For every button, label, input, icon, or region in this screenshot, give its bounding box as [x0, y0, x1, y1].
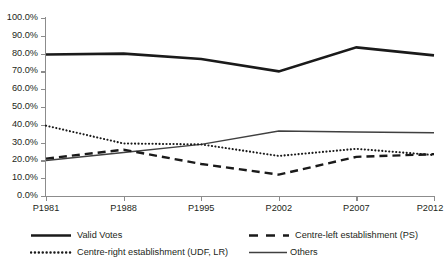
legend-label: Centre-left establishment (PS): [295, 230, 418, 241]
series-line-valid-votes: [46, 47, 434, 71]
x-tick-label: P2002: [266, 203, 293, 214]
x-axis: P1981 P1988 P1995 P2002 P2007 P2012: [0, 203, 444, 219]
legend-label: Centre-right establishment (UDF, LR): [77, 247, 228, 258]
series-line-centre-left: [46, 150, 434, 175]
legend-item-valid-votes: Valid Votes: [30, 230, 122, 241]
series-line-others: [46, 131, 434, 160]
legend-swatch-solid-thin-icon: [248, 247, 288, 258]
x-tick-label: P1995: [188, 203, 215, 214]
legend-item-centre-right: Centre-right establishment (UDF, LR): [30, 247, 228, 258]
legend-label: Others: [290, 247, 318, 258]
legend-swatch-dashed-icon: [248, 230, 290, 241]
line-chart: 100.0% 90.0% 80.0% 70.0% 60.0% 50.0% 40.…: [0, 0, 444, 273]
legend-label: Valid Votes: [77, 230, 122, 241]
legend-swatch-solid-thick-icon: [30, 230, 72, 241]
legend-swatch-dotted-icon: [30, 247, 72, 258]
plot-region: 100.0% 90.0% 80.0% 70.0% 60.0% 50.0% 40.…: [0, 0, 444, 212]
legend-item-others: Others: [248, 247, 318, 258]
legend-item-centre-left: Centre-left establishment (PS): [248, 230, 418, 241]
x-tick-label: P2007: [343, 203, 370, 214]
chart-legend: Valid Votes Centre-left establishment (P…: [0, 228, 444, 273]
x-tick-label: P2012: [417, 203, 444, 214]
x-tick-label: P1981: [33, 203, 60, 214]
x-tick-label: P1988: [110, 203, 137, 214]
series-lines: [0, 0, 444, 212]
